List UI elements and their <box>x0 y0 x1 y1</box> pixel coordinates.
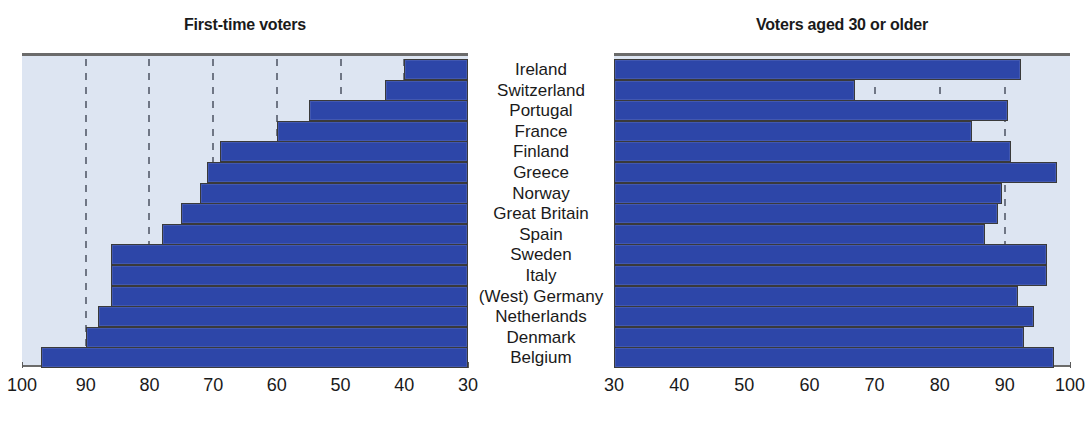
bar-denmark <box>86 327 468 348</box>
axis-label-90: 90 <box>995 375 1015 396</box>
category-label-netherlands: Netherlands <box>468 306 614 327</box>
axis-label-60: 60 <box>267 375 287 396</box>
category-label-spain: Spain <box>468 224 614 245</box>
bar-row <box>22 224 468 245</box>
bar-row <box>22 286 468 307</box>
bar-row <box>614 183 1070 204</box>
bar-denmark <box>614 327 1024 348</box>
bar-row <box>22 203 468 224</box>
bar-row <box>22 100 468 121</box>
bar-italy <box>111 265 468 286</box>
bar-switzerland <box>385 80 468 101</box>
plot-area-left <box>22 53 468 367</box>
bar-italy <box>614 265 1047 286</box>
axis-label-40: 40 <box>669 375 689 396</box>
bar-greece <box>614 162 1057 183</box>
category-label-italy: Italy <box>468 265 614 286</box>
bar-row <box>22 59 468 80</box>
x-axis-left: 10090807060504030 <box>22 375 468 405</box>
axis-label-80: 80 <box>930 375 950 396</box>
bar-row <box>614 59 1070 80</box>
bar-row <box>614 286 1070 307</box>
axis-label-30: 30 <box>458 375 478 396</box>
axis-label-40: 40 <box>394 375 414 396</box>
category-label-great-britain: Great Britain <box>468 203 614 224</box>
bar-switzerland <box>614 80 855 101</box>
axis-label-70: 70 <box>203 375 223 396</box>
bar-netherlands <box>614 306 1034 327</box>
bar-france <box>277 121 468 142</box>
category-label-norway: Norway <box>468 183 614 204</box>
bar-west-germany <box>111 286 468 307</box>
bar-portugal <box>614 100 1008 121</box>
category-label-sweden: Sweden <box>468 244 614 265</box>
bar-great-britain <box>614 203 998 224</box>
bar-west-germany <box>614 286 1018 307</box>
category-labels: IrelandSwitzerlandPortugalFranceFinlandG… <box>468 49 614 371</box>
bar-row <box>614 80 1070 101</box>
axis-label-100: 100 <box>7 375 37 396</box>
bar-sweden <box>614 244 1047 265</box>
bar-norway <box>614 183 1002 204</box>
bar-spain <box>614 224 985 245</box>
chart-figure: First-time voters Voters aged 30 or olde… <box>0 0 1085 423</box>
bar-row <box>614 100 1070 121</box>
category-label-denmark: Denmark <box>468 327 614 348</box>
bar-netherlands <box>98 306 468 327</box>
bar-belgium <box>614 347 1054 368</box>
bar-ireland <box>404 59 468 80</box>
bar-row <box>22 306 468 327</box>
bar-row <box>614 306 1070 327</box>
axis-tick-100 <box>1070 362 1071 368</box>
bar-row <box>614 162 1070 183</box>
axis-label-90: 90 <box>76 375 96 396</box>
panel-voters-30-or-older <box>614 49 1070 371</box>
bar-belgium <box>41 347 468 368</box>
bar-row <box>22 347 468 368</box>
axis-label-50: 50 <box>331 375 351 396</box>
bar-row <box>614 121 1070 142</box>
panel-first-time-voters <box>22 49 468 371</box>
bar-great-britain <box>181 203 468 224</box>
axis-label-50: 50 <box>734 375 754 396</box>
category-label-finland: Finland <box>468 141 614 162</box>
bar-row <box>22 121 468 142</box>
bar-row <box>22 244 468 265</box>
category-label-west-germany: (West) Germany <box>468 286 614 307</box>
bar-row <box>614 265 1070 286</box>
bar-greece <box>207 162 468 183</box>
bar-row <box>614 141 1070 162</box>
category-label-portugal: Portugal <box>468 100 614 121</box>
category-label-ireland: Ireland <box>468 59 614 80</box>
bar-row <box>614 203 1070 224</box>
axis-label-70: 70 <box>865 375 885 396</box>
bar-ireland <box>614 59 1021 80</box>
bar-france <box>614 121 972 142</box>
bar-row <box>22 265 468 286</box>
bar-row <box>22 183 468 204</box>
category-label-belgium: Belgium <box>468 347 614 368</box>
bar-row <box>614 347 1070 368</box>
bar-row <box>614 224 1070 245</box>
plot-area-right <box>614 53 1070 367</box>
axis-label-100: 100 <box>1055 375 1085 396</box>
bar-portugal <box>309 100 468 121</box>
bar-row <box>22 80 468 101</box>
bar-finland <box>220 141 468 162</box>
bar-row <box>614 327 1070 348</box>
category-label-greece: Greece <box>468 162 614 183</box>
category-label-france: France <box>468 121 614 142</box>
bar-row <box>22 162 468 183</box>
chart-title-right: Voters aged 30 or older <box>614 16 1070 34</box>
bar-row <box>22 327 468 348</box>
axis-label-60: 60 <box>799 375 819 396</box>
plot-top-rule-left <box>22 53 468 56</box>
plot-top-rule-right <box>614 53 1070 56</box>
axis-label-80: 80 <box>139 375 159 396</box>
bar-row <box>614 244 1070 265</box>
axis-label-30: 30 <box>604 375 624 396</box>
category-label-switzerland: Switzerland <box>468 80 614 101</box>
bar-finland <box>614 141 1011 162</box>
chart-title-left: First-time voters <box>22 16 468 34</box>
x-axis-right: 30405060708090100 <box>614 375 1070 405</box>
